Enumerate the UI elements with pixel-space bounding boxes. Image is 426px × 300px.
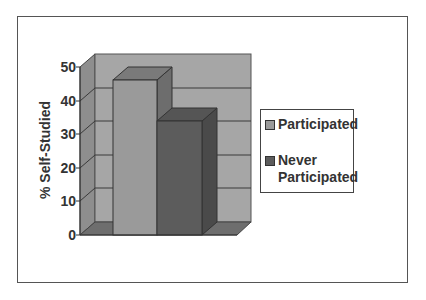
legend-item-never-participated: Never Participated [265,152,358,186]
legend-swatch-participated [265,120,275,130]
chart-plot: 50 40 30 20 10 0 % Self-Studied [0,0,426,300]
legend-label: Participated [278,116,358,133]
legend: Participated Never Participated [260,109,354,193]
ytick-50: 50 [60,59,76,75]
ytick-40: 40 [60,93,76,109]
y-axis-label: % Self-Studied [37,101,53,199]
legend-label: Never Participated [278,152,358,186]
legend-label-line2: Participated [278,169,358,185]
side-wall [80,54,95,235]
legend-item-participated: Participated [265,116,358,133]
bar-never-participated [157,108,217,235]
legend-swatch-never-participated [265,156,275,166]
legend-label-line1: Never [278,152,317,168]
ytick-10: 10 [60,193,76,209]
ytick-30: 30 [60,126,76,142]
ytick-0: 0 [68,227,76,243]
ytick-20: 20 [60,160,76,176]
